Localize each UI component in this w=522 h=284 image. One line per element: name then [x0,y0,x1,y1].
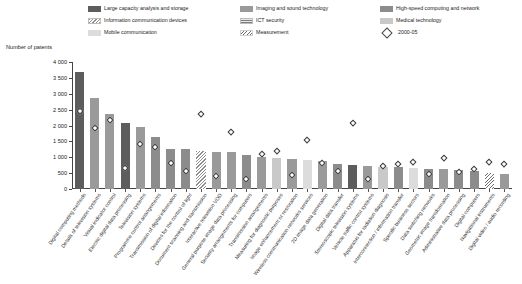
legend-label: Imaging and sound technology [256,6,328,11]
x-tick [489,189,490,192]
x-axis-label: Measuring for diagnostic purposes [233,192,283,260]
legend-item-imaging: Imaging and sound technology [240,6,380,12]
x-axis-label: Interconnection / information transfer [352,192,405,265]
legend-swatch-icon [240,6,253,12]
x-axis-label: Visual indicator control [82,192,117,238]
x-tick [140,189,141,192]
legend-label: Large capacity analysis and storage [104,6,189,11]
x-axis-label: Specific business sectors [382,192,420,243]
data-point-marker [410,159,418,167]
data-point-marker [273,148,281,156]
y-tick-label: 0 [64,186,67,192]
x-tick [398,189,399,192]
legend-item-info-devices: Information communication devices [88,18,240,24]
x-tick [429,189,430,192]
x-tick [504,189,505,192]
x-axis-label: Document scanning and transmission [153,192,208,266]
bar [439,169,448,189]
bar [257,157,266,189]
x-tick [353,189,354,192]
legend-label: High-speed computing and network [396,6,479,11]
x-tick [125,189,126,192]
legend-item-mobile: Mobile communication [88,30,240,36]
bar [212,152,221,189]
x-tick [459,189,460,192]
y-tick-label: 4 000 [53,59,67,65]
x-axis-label: Electric digital data processing [87,192,132,253]
x-axis-label: Transmission of digital information [128,192,178,260]
legend-label: Measurement [256,30,288,35]
x-axis-label: Apparatus for radiation diagnosis [342,192,390,258]
y-tick-label: 500 [58,170,67,176]
y-tick-label: 3 000 [53,91,67,97]
x-tick [338,189,339,192]
x-tick [413,189,414,192]
data-point-marker [440,155,448,163]
legend-item-medical: Medical technology [380,18,518,24]
y-tick [69,78,72,79]
y-tick [69,126,72,127]
x-tick [444,189,445,192]
x-axis-label: Details of television systems [59,192,101,249]
y-tick-label: 1 000 [53,154,67,160]
data-point-marker [197,111,205,119]
x-tick [322,189,323,192]
data-point-marker [227,128,235,136]
legend-item-large-capacity: Large capacity analysis and storage [88,6,240,12]
chart-legend: Large capacity analysis and storage Imag… [88,3,518,39]
x-axis-label: Digital video / audio recording [467,192,511,251]
x-tick [292,189,293,192]
patent-bar-chart-figure: Large capacity analysis and storage Imag… [0,0,522,284]
x-tick [474,189,475,192]
data-point-marker [349,120,357,128]
x-tick [262,189,263,192]
bar [227,152,236,189]
x-axis-label: Image enhancement or restoration [249,192,299,260]
bar [75,72,84,189]
x-tick [246,189,247,192]
legend-swatch-icon [240,18,253,24]
x-tick [307,189,308,192]
x-axis-label: Digital computers [453,192,481,228]
x-tick [110,189,111,192]
data-point-marker [303,137,311,145]
bar [485,173,494,190]
y-tick [69,94,72,95]
x-axis-label: 2D image data generation [290,192,329,244]
x-axis-label: Television systems [117,192,147,231]
bar [348,165,357,189]
y-tick [69,141,72,142]
legend-item-ict-security: ICT security [240,18,380,24]
legend-swatch-icon [88,6,101,12]
x-axis-label: Security arrangements for computers [200,192,254,265]
bar [166,149,175,189]
x-axis-label: Stereoscopic television systems [313,192,360,256]
bar [242,155,251,189]
legend-swatch-icon [380,18,393,24]
bar [409,168,418,189]
legend-label: Medical technology [396,18,441,23]
x-axis-label: General purpose image data processing [180,192,238,271]
bar [136,127,145,189]
x-axis-label: Vehicle traffic control systems [331,192,375,251]
x-tick [368,189,369,192]
y-tick [69,189,72,190]
legend-swatch-icon [88,30,101,36]
bar [272,158,281,189]
bar [500,174,509,189]
x-axis-label: Wireless communication networks services [252,192,314,276]
x-axis-label: Data switching networks [398,192,435,241]
x-axis-label: Interactive television VOD [184,192,223,244]
legend-item-high-speed: High-speed computing and network [380,6,518,12]
y-tick [69,173,72,174]
bar [105,114,114,189]
x-tick [171,189,172,192]
x-tick [80,189,81,192]
legend-swatch-icon [88,18,101,24]
legend-swatch-icon [380,6,393,12]
y-axis-title: Number of patents [6,44,52,50]
x-axis-label: Programme control arrangements [113,192,162,259]
legend-label: Mobile communication [104,30,157,35]
x-tick [231,189,232,192]
legend-label: Information communication devices [104,18,187,23]
